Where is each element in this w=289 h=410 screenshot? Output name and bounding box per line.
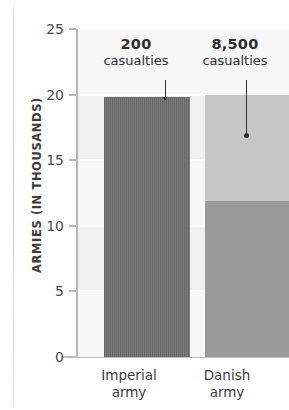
annotation-imperial-caption: casualties bbox=[84, 53, 188, 68]
bar-imperial-army bbox=[104, 97, 190, 357]
annotation-imperial-casualties: 200 casualties bbox=[84, 36, 188, 68]
bar-danish-survivors bbox=[205, 201, 289, 357]
leader-arrowhead-imperial bbox=[163, 97, 167, 101]
annotation-danish-value: 8,500 bbox=[183, 36, 287, 53]
y-tick-label: 0 bbox=[24, 350, 64, 364]
y-tick-label: 5 bbox=[24, 284, 64, 298]
category-label-danish: Danish army bbox=[180, 367, 274, 401]
y-tick-label: 25 bbox=[24, 22, 64, 36]
category-label-danish-line1: Danish bbox=[180, 367, 274, 384]
y-tick-mark bbox=[69, 94, 76, 96]
bar-chart: ARMIES (IN THOUSANDS) 0510152025 200 cas… bbox=[0, 0, 289, 410]
category-label-danish-line2: army bbox=[180, 384, 274, 401]
y-tick-label: 15 bbox=[24, 153, 64, 167]
annotation-danish-casualties: 8,500 casualties bbox=[183, 36, 287, 68]
y-axis-title: ARMIES (IN THOUSANDS) bbox=[30, 85, 44, 285]
plot-area bbox=[78, 29, 289, 357]
y-tick-mark bbox=[69, 290, 76, 292]
y-tick-mark bbox=[69, 225, 76, 227]
category-label-imperial-line1: Imperial bbox=[82, 367, 176, 384]
y-tick-mark bbox=[69, 356, 76, 358]
category-label-imperial-line2: army bbox=[82, 384, 176, 401]
y-tick-mark bbox=[69, 159, 76, 161]
y-tick-label: 10 bbox=[24, 219, 64, 233]
annotation-danish-caption: casualties bbox=[183, 53, 287, 68]
annotation-imperial-value: 200 bbox=[84, 36, 188, 53]
leader-dot-danish bbox=[244, 133, 249, 138]
y-tick-label: 20 bbox=[24, 88, 64, 102]
category-label-imperial: Imperial army bbox=[82, 367, 176, 401]
y-tick-mark bbox=[69, 28, 76, 30]
leader-line-danish bbox=[246, 80, 247, 137]
gridline bbox=[78, 29, 289, 30]
